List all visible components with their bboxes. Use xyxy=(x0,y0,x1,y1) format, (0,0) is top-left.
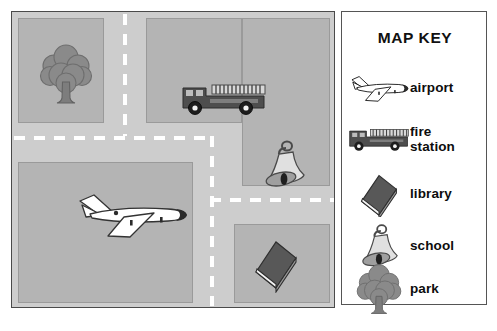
key-label-fire-station-line1: fire xyxy=(410,124,455,139)
key-entry-airport[interactable]: airport xyxy=(348,66,482,110)
lane-marking-horizontal-east xyxy=(210,198,335,202)
airplane-icon xyxy=(348,70,410,107)
key-label-school: school xyxy=(410,238,454,253)
key-entry-fire-station[interactable]: fire station xyxy=(348,116,482,162)
lane-marking-horizontal-west xyxy=(14,136,214,140)
map-panel xyxy=(11,11,335,308)
key-label-park: park xyxy=(410,281,439,296)
map-worksheet-page: MAP KEY airport xyxy=(0,0,497,331)
book-icon xyxy=(252,238,300,293)
airplane-icon xyxy=(72,187,194,243)
key-entry-park[interactable]: park xyxy=(348,264,482,314)
lane-marking-vertical-south xyxy=(210,136,214,306)
fire-truck-icon xyxy=(180,80,268,118)
tree-icon xyxy=(348,263,410,316)
map-key-panel: MAP KEY airport xyxy=(341,11,487,305)
lane-marking-vertical-north xyxy=(123,14,127,136)
key-label-library: library xyxy=(410,186,452,201)
fire-truck-icon xyxy=(348,125,410,154)
map-key-title: MAP KEY xyxy=(342,29,488,47)
book-icon xyxy=(348,171,410,217)
key-label-fire-station: fire station xyxy=(410,124,455,154)
key-label-fire-station-line2: station xyxy=(410,139,455,154)
bell-icon xyxy=(261,137,307,193)
key-label-airport: airport xyxy=(410,80,453,95)
key-entry-library[interactable]: library xyxy=(348,172,482,216)
tree-icon xyxy=(37,42,95,107)
